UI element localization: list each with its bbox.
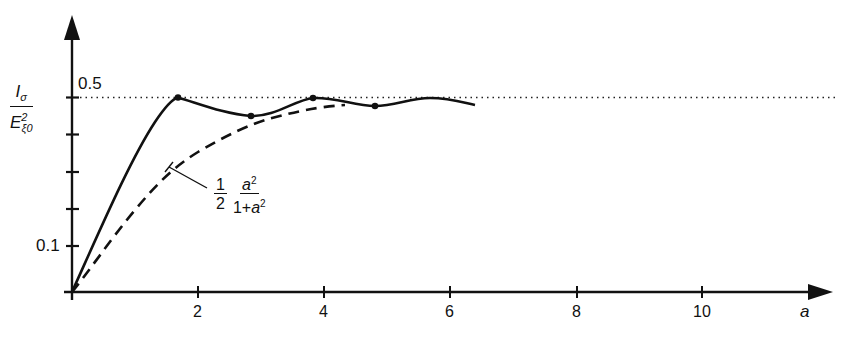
dashed-curve-approximation — [72, 105, 345, 292]
solid-curve-exact — [72, 98, 475, 293]
y-axis-label: Iσ E2ξ0 — [10, 84, 33, 138]
y-label-denominator: E — [10, 113, 21, 132]
annotation-leader — [165, 162, 207, 188]
formula-den-exp: 2 — [260, 198, 266, 209]
formula-half-denominator: 2 — [214, 194, 227, 213]
x-tick-label-6: 6 — [445, 303, 454, 321]
chart-canvas — [0, 0, 860, 342]
x-tick-label-2: 2 — [193, 303, 202, 321]
x-tick-label-10: 10 — [693, 303, 711, 321]
x-axis-label: a — [800, 302, 809, 322]
y-tick-label-0-1: 0.1 — [36, 236, 60, 256]
formula-annotation: 1 2 a2 1+a2 — [214, 172, 272, 218]
y-axis-arrow-icon — [64, 15, 80, 40]
formula-num-var: a — [242, 176, 251, 193]
x-tick-label-4: 4 — [319, 303, 328, 321]
x-axis-arrow-icon — [808, 284, 833, 300]
formula-ratio-numerator: a2 — [240, 172, 258, 194]
x-tick-label-8: 8 — [572, 303, 581, 321]
axes — [64, 15, 833, 300]
formula-num-exp: 2 — [251, 175, 257, 186]
formula-den-const: 1+ — [233, 200, 251, 217]
formula-half: 1 2 — [214, 176, 227, 213]
y-tick-label-0-5: 0.5 — [78, 74, 102, 94]
formula-half-numerator: 1 — [214, 176, 227, 194]
formula-den-var: a — [251, 200, 260, 217]
y-label-denominator-sub: ξ0 — [21, 122, 32, 134]
formula-ratio-denominator: 1+a2 — [231, 194, 268, 217]
formula-ratio: a2 1+a2 — [231, 172, 268, 218]
y-label-numerator-sub: σ — [20, 91, 27, 103]
